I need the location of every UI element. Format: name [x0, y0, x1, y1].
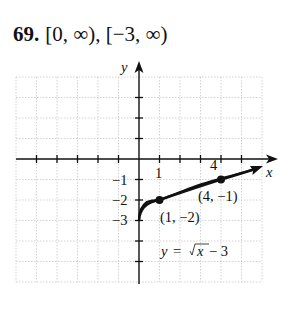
point-label-4-neg1: (4, −1) — [198, 188, 238, 205]
svg-text:x: x — [196, 243, 204, 259]
svg-text:=: = — [173, 243, 181, 259]
point-1-neg2 — [156, 196, 164, 204]
y-tick-label-neg2: −2 — [112, 192, 127, 208]
point-4-neg1 — [217, 176, 225, 184]
y-tick-label-neg3: −3 — [112, 212, 127, 228]
equation-label: y = x − 3 — [159, 243, 228, 259]
graph: y x 1 4 −1 −2 −3 (1, −2) (4, −1) y = x −… — [0, 0, 286, 310]
svg-text:− 3: − 3 — [209, 243, 228, 259]
x-tick-label-4: 4 — [210, 157, 218, 173]
point-label-1-neg2: (1, −2) — [160, 209, 200, 226]
x-axis-label: x — [265, 164, 273, 180]
y-axis-label: y — [119, 59, 128, 75]
y-tick-label-neg1: −1 — [112, 172, 127, 188]
x-tick-label-1: 1 — [155, 165, 162, 181]
svg-text:y: y — [159, 243, 168, 259]
